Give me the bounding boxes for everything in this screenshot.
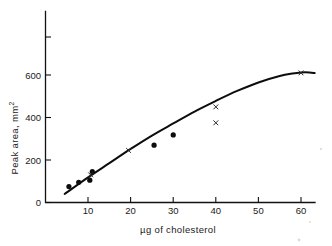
scatter-cross-markers [88, 70, 303, 177]
data-point-dot [87, 178, 92, 183]
y-tick-label-200: 200 [25, 155, 41, 166]
data-point-cross [213, 120, 218, 125]
data-point-dot [171, 132, 176, 137]
y-tick-label-400: 400 [25, 112, 41, 123]
y-axis-title: Peak area, mm2 [8, 102, 20, 175]
y-axis-title-superscript: 2 [8, 102, 15, 106]
data-point-dot [66, 184, 71, 189]
x-tick-label-60: 60 [296, 205, 307, 216]
fitted-calibration-curve [65, 72, 315, 194]
scan-speck [320, 148, 322, 150]
data-point-dot [76, 180, 81, 185]
y-tick-label-600: 600 [25, 70, 41, 81]
chart-figure: 0 200 400 600 10 20 30 40 50 60 Peak are [0, 0, 332, 246]
x-tick-label-40: 40 [211, 205, 222, 216]
x-axis-title: µg of cholesterol [140, 224, 216, 235]
y-tick-label-0: 0 [36, 197, 41, 208]
y-axis-ticks [46, 37, 52, 203]
calibration-chart: 0 200 400 600 10 20 30 40 50 60 Peak are [0, 0, 332, 246]
data-point-cross [213, 104, 218, 109]
x-tick-label-10: 10 [83, 205, 94, 216]
scan-specks [298, 148, 323, 242]
x-axis-ticks [88, 197, 301, 203]
scan-speck [309, 221, 311, 223]
y-axis-title-group: Peak area, mm2 [8, 102, 20, 175]
y-axis-title-text: Peak area, mm [9, 106, 20, 175]
x-tick-label-50: 50 [253, 205, 264, 216]
data-point-dot [151, 143, 156, 148]
x-tick-label-30: 30 [168, 205, 179, 216]
scan-speck [298, 239, 301, 242]
x-tick-label-20: 20 [125, 205, 136, 216]
axis-lines [46, 12, 316, 203]
